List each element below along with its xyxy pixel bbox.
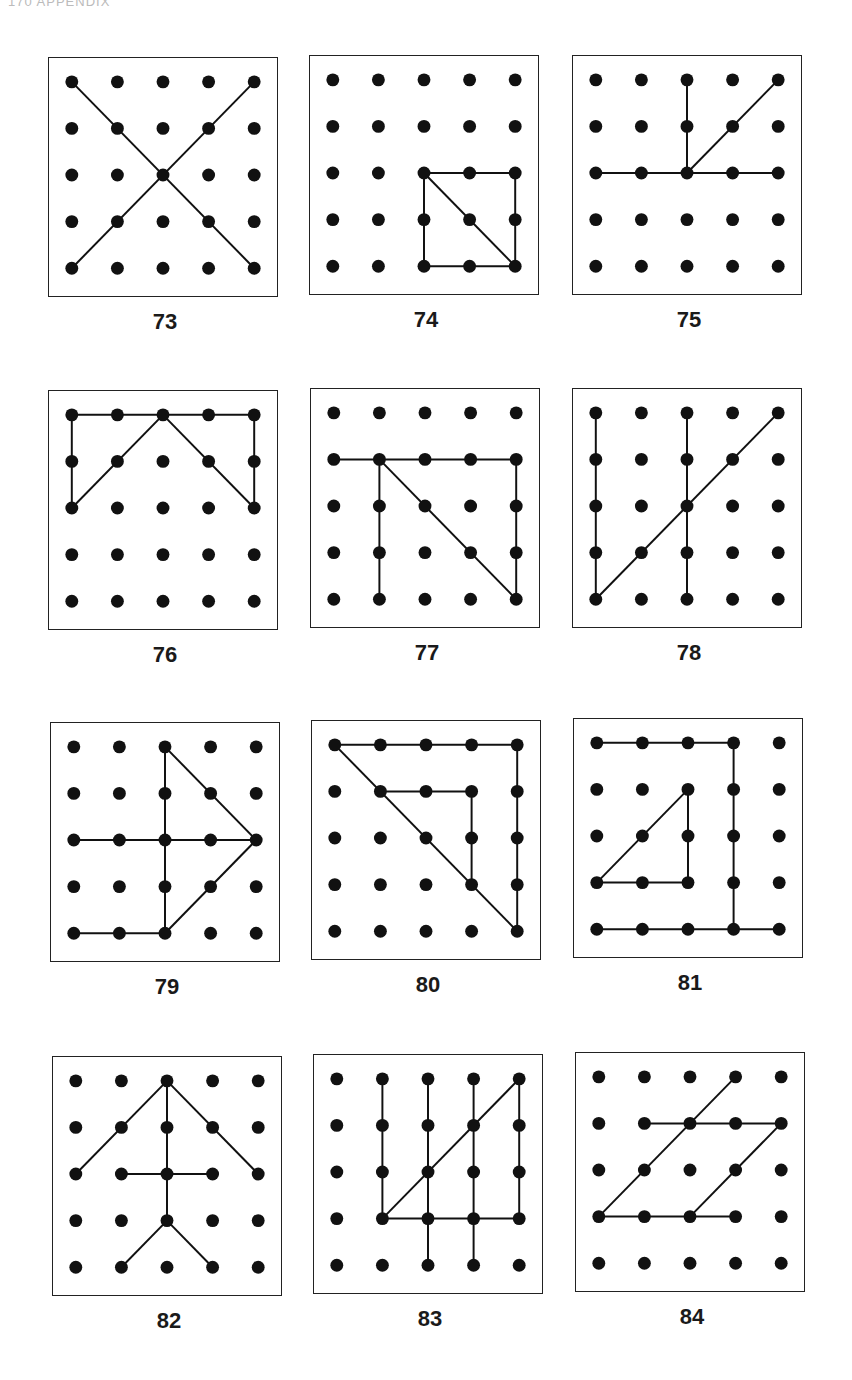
peg-dot: [376, 1072, 389, 1085]
peg-dot: [465, 832, 478, 845]
peg-dot: [111, 548, 124, 561]
peg-dot: [327, 406, 340, 419]
peg-dot: [727, 830, 740, 843]
peg-dot: [463, 260, 476, 273]
peg-dot: [513, 1119, 526, 1132]
figure-number: 76: [48, 642, 282, 668]
peg-dot: [252, 1214, 265, 1227]
peg-dot: [590, 923, 603, 936]
peg-dot: [419, 593, 432, 606]
geoboard: [48, 57, 278, 297]
peg-dot: [635, 167, 648, 180]
peg-dot: [727, 736, 740, 749]
figure-number: 80: [311, 972, 545, 998]
peg-dot: [464, 406, 477, 419]
band-segment: [121, 1221, 167, 1268]
peg-dot: [467, 1119, 480, 1132]
figure-80: 80: [311, 720, 545, 998]
peg-dot: [775, 1210, 788, 1223]
peg-dot: [248, 262, 261, 275]
peg-dot: [418, 213, 431, 226]
peg-dot: [69, 1074, 82, 1087]
peg-dot: [330, 1259, 343, 1272]
peg-dot: [513, 1166, 526, 1179]
peg-dot: [422, 1212, 435, 1225]
peg-dot: [113, 927, 126, 940]
peg-dot: [422, 1072, 435, 1085]
peg-dot: [467, 1259, 480, 1272]
peg-dot: [684, 1257, 697, 1270]
peg-dot: [65, 548, 78, 561]
peg-dot: [682, 876, 695, 889]
peg-dot: [374, 925, 387, 938]
figure-number: 77: [310, 640, 544, 666]
geoboard: [311, 720, 541, 960]
peg-dot: [589, 120, 602, 133]
figure-number: 82: [52, 1308, 286, 1334]
peg-dot: [206, 1121, 219, 1134]
peg-dot: [463, 213, 476, 226]
peg-dot: [206, 1168, 219, 1181]
peg-dot: [772, 73, 785, 86]
peg-dot: [682, 736, 695, 749]
peg-dot: [681, 260, 694, 273]
peg-dot: [420, 832, 433, 845]
peg-dot: [773, 736, 786, 749]
figure-73: 73: [48, 57, 282, 335]
peg-dot: [419, 546, 432, 559]
peg-dot: [374, 738, 387, 751]
peg-dot: [115, 1168, 128, 1181]
peg-dot: [772, 260, 785, 273]
peg-dot: [772, 593, 785, 606]
peg-dot: [157, 408, 170, 421]
band-segment: [379, 459, 516, 599]
peg-dot: [465, 878, 478, 891]
peg-dot: [248, 215, 261, 228]
peg-dot: [373, 453, 386, 466]
peg-dot: [420, 878, 433, 891]
peg-dot: [372, 167, 385, 180]
peg-dot: [635, 500, 648, 513]
peg-dot: [327, 593, 340, 606]
peg-dot: [509, 167, 522, 180]
peg-dot: [111, 502, 124, 515]
peg-dot: [65, 169, 78, 182]
peg-dot: [681, 120, 694, 133]
figure-number: 81: [573, 970, 807, 996]
peg-dot: [248, 455, 261, 468]
geoboard: [309, 55, 539, 295]
peg-dot: [422, 1166, 435, 1179]
peg-dot: [250, 927, 263, 940]
peg-dot: [636, 876, 649, 889]
peg-dot: [65, 75, 78, 88]
peg-dot: [726, 120, 739, 133]
peg-dot: [373, 593, 386, 606]
geoboard: [572, 55, 802, 295]
peg-dot: [727, 876, 740, 889]
peg-dot: [511, 832, 524, 845]
peg-dot: [420, 738, 433, 751]
peg-dot: [69, 1168, 82, 1181]
figure-number: 73: [48, 309, 282, 335]
peg-dot: [327, 453, 340, 466]
peg-dot: [326, 167, 339, 180]
peg-dot: [729, 1164, 742, 1177]
peg-dot: [681, 500, 694, 513]
peg-dot: [373, 406, 386, 419]
peg-dot: [374, 785, 387, 798]
peg-dot: [726, 213, 739, 226]
peg-dot: [589, 73, 602, 86]
peg-dot: [635, 546, 648, 559]
peg-dot: [376, 1119, 389, 1132]
geoboard-drawing: [49, 58, 277, 296]
peg-dot: [726, 73, 739, 86]
peg-dot: [590, 783, 603, 796]
peg-dot: [252, 1074, 265, 1087]
peg-dot: [157, 502, 170, 515]
peg-dot: [509, 260, 522, 273]
peg-dot: [418, 73, 431, 86]
peg-dot: [636, 783, 649, 796]
figure-81: 81: [573, 718, 807, 996]
peg-dot: [684, 1164, 697, 1177]
peg-dot: [159, 787, 172, 800]
